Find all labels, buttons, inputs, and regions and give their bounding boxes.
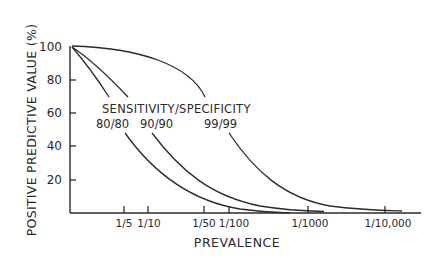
y-axis-title: POSITIVE PREDICTIVE VALUE (%): [24, 24, 39, 237]
curve-90-90: [72, 47, 128, 97]
x-tick-label: 1/10: [137, 217, 161, 229]
curve-80-80-lower: [125, 133, 290, 213]
x-tick-label: 1/10,000: [365, 217, 412, 229]
y-tick-label: 20: [47, 173, 62, 187]
legend-entry-90-90: 90/90: [140, 117, 173, 131]
y-ticks: [70, 80, 76, 180]
y-tick-label: 40: [47, 139, 62, 153]
x-axis-title: PREVALENCE: [194, 235, 280, 250]
ppv-chart: 100 80 60 40 20 1/5 1/10 1/50 1/100 1/10…: [0, 0, 442, 258]
y-tick-label: 80: [47, 73, 62, 87]
x-tick-label: 1/50: [192, 217, 216, 229]
y-tick-label: 100: [39, 40, 62, 54]
x-tick-label: 1/1000: [292, 217, 329, 229]
legend-title: SENSITIVITY/SPECIFICITY: [102, 102, 251, 116]
legend-entry-99-99: 99/99: [204, 117, 237, 131]
curve-99-99-lower: [229, 133, 402, 211]
x-tick-label: 1/100: [219, 217, 249, 229]
x-ticks: [124, 206, 385, 213]
legend-entry-80-80: 80/80: [96, 117, 129, 131]
x-tick-label: 1/5: [116, 217, 133, 229]
y-tick-label: 60: [47, 106, 62, 120]
